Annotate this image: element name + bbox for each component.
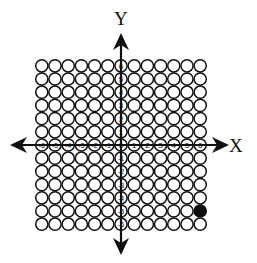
grid-point[interactable]	[102, 60, 114, 72]
grid-point[interactable]	[181, 60, 193, 72]
grid-point[interactable]	[62, 218, 74, 230]
grid-point[interactable]	[194, 192, 206, 204]
grid-point[interactable]	[62, 86, 74, 98]
grid-point[interactable]	[49, 60, 61, 72]
grid-point[interactable]	[75, 99, 87, 111]
grid-point[interactable]	[102, 126, 114, 138]
grid-point[interactable]	[155, 192, 167, 204]
grid-point[interactable]	[49, 86, 61, 98]
grid-point[interactable]	[62, 126, 74, 138]
grid-point[interactable]	[62, 99, 74, 111]
grid-point[interactable]	[194, 73, 206, 85]
grid-point[interactable]	[128, 99, 140, 111]
grid-point[interactable]	[102, 179, 114, 191]
grid-point[interactable]	[128, 179, 140, 191]
grid-point[interactable]	[36, 205, 48, 217]
grid-point[interactable]	[102, 99, 114, 111]
grid-point[interactable]	[75, 86, 87, 98]
grid-point[interactable]	[194, 126, 206, 138]
grid-point[interactable]	[181, 99, 193, 111]
grid-point[interactable]	[89, 126, 101, 138]
grid-point[interactable]	[128, 205, 140, 217]
grid-point[interactable]	[168, 113, 180, 125]
grid-point[interactable]	[62, 152, 74, 164]
grid-point[interactable]	[155, 205, 167, 217]
grid-point[interactable]	[62, 73, 74, 85]
grid-point[interactable]	[49, 205, 61, 217]
grid-point[interactable]	[75, 60, 87, 72]
grid-point[interactable]	[141, 113, 153, 125]
grid-point[interactable]	[75, 73, 87, 85]
grid-point[interactable]	[194, 165, 206, 177]
grid-point[interactable]	[75, 152, 87, 164]
grid-point[interactable]	[49, 73, 61, 85]
grid-point[interactable]	[168, 152, 180, 164]
grid-point[interactable]	[62, 165, 74, 177]
grid-point[interactable]	[36, 192, 48, 204]
grid-point[interactable]	[49, 126, 61, 138]
grid-point[interactable]	[75, 205, 87, 217]
grid-point[interactable]	[181, 218, 193, 230]
grid-point[interactable]	[102, 165, 114, 177]
grid-point[interactable]	[49, 179, 61, 191]
grid-point[interactable]	[36, 165, 48, 177]
grid-point[interactable]	[194, 99, 206, 111]
grid-point[interactable]	[141, 99, 153, 111]
grid-point[interactable]	[89, 205, 101, 217]
grid-point[interactable]	[168, 60, 180, 72]
grid-point[interactable]	[49, 165, 61, 177]
grid-point[interactable]	[75, 126, 87, 138]
grid-point[interactable]	[49, 218, 61, 230]
grid-point[interactable]	[89, 86, 101, 98]
grid-point[interactable]	[36, 113, 48, 125]
grid-point[interactable]	[62, 192, 74, 204]
grid-point[interactable]	[168, 179, 180, 191]
grid-point[interactable]	[141, 218, 153, 230]
grid-point[interactable]	[181, 205, 193, 217]
grid-point[interactable]	[181, 152, 193, 164]
grid-point[interactable]	[36, 218, 48, 230]
grid-point[interactable]	[102, 152, 114, 164]
grid-point[interactable]	[89, 192, 101, 204]
grid-point[interactable]	[155, 152, 167, 164]
grid-point[interactable]	[141, 73, 153, 85]
grid-point[interactable]	[89, 73, 101, 85]
grid-point[interactable]	[36, 60, 48, 72]
grid-point[interactable]	[155, 60, 167, 72]
grid-point[interactable]	[89, 179, 101, 191]
grid-point[interactable]	[75, 165, 87, 177]
grid-point[interactable]	[141, 165, 153, 177]
grid-point[interactable]	[62, 60, 74, 72]
grid-point[interactable]	[141, 86, 153, 98]
grid-point[interactable]	[168, 126, 180, 138]
grid-point[interactable]	[181, 165, 193, 177]
grid-point[interactable]	[141, 192, 153, 204]
grid-point[interactable]	[36, 126, 48, 138]
grid-point[interactable]	[155, 113, 167, 125]
grid-point[interactable]	[49, 113, 61, 125]
grid-point[interactable]	[128, 86, 140, 98]
grid-point[interactable]	[128, 126, 140, 138]
grid-point[interactable]	[49, 152, 61, 164]
grid-point[interactable]	[49, 192, 61, 204]
grid-point[interactable]	[89, 113, 101, 125]
grid-point[interactable]	[128, 73, 140, 85]
grid-point[interactable]	[181, 73, 193, 85]
grid-point[interactable]	[168, 73, 180, 85]
grid-point[interactable]	[49, 99, 61, 111]
grid-point[interactable]	[141, 179, 153, 191]
grid-point[interactable]	[36, 99, 48, 111]
grid-point[interactable]	[89, 165, 101, 177]
grid-point-filled[interactable]	[194, 205, 206, 217]
grid-point[interactable]	[36, 179, 48, 191]
grid-point[interactable]	[168, 165, 180, 177]
grid-point[interactable]	[102, 86, 114, 98]
grid-point[interactable]	[102, 113, 114, 125]
grid-point[interactable]	[75, 179, 87, 191]
grid-point[interactable]	[128, 152, 140, 164]
grid-point[interactable]	[75, 218, 87, 230]
grid-point[interactable]	[194, 113, 206, 125]
grid-point[interactable]	[155, 179, 167, 191]
grid-point[interactable]	[181, 126, 193, 138]
grid-point[interactable]	[128, 192, 140, 204]
